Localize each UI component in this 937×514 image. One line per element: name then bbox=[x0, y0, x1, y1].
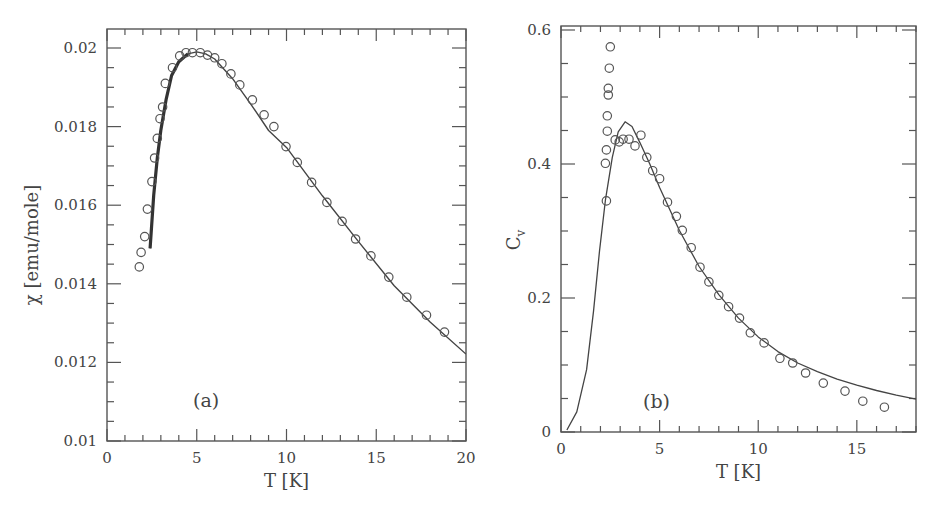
y-tick-label: 0.02 bbox=[64, 39, 97, 57]
data-points bbox=[601, 43, 888, 412]
x-axis-label: T [K] bbox=[716, 461, 761, 482]
x-tick-label: 15 bbox=[367, 449, 386, 467]
axis-ticks bbox=[561, 26, 916, 432]
data-point bbox=[631, 142, 639, 150]
y-tick-label: 0.01 bbox=[64, 432, 97, 450]
data-point bbox=[841, 387, 849, 395]
data-point bbox=[637, 131, 645, 139]
y-tick-label: 0 bbox=[541, 423, 551, 441]
chart-panel-a: 051015200.010.0120.0140.0160.0180.02T [K… bbox=[21, 29, 476, 491]
x-axis-label: T [K] bbox=[264, 470, 309, 491]
data-point bbox=[625, 135, 633, 143]
panel-label: (a) bbox=[193, 389, 219, 411]
data-point bbox=[270, 122, 278, 130]
data-point bbox=[141, 232, 149, 240]
fit-curve bbox=[150, 52, 466, 354]
y-tick-label: 0.012 bbox=[54, 353, 97, 371]
y-tick-label: 0.014 bbox=[54, 275, 97, 293]
x-tick-label: 5 bbox=[655, 440, 665, 458]
y-axis-label: χ [emu/mole] bbox=[21, 185, 42, 305]
panel-label: (b) bbox=[643, 390, 670, 412]
axis-ticks bbox=[107, 29, 466, 441]
data-point bbox=[605, 64, 613, 72]
y-axis-label: Cv bbox=[503, 230, 528, 251]
data-point bbox=[705, 278, 713, 286]
data-point bbox=[603, 127, 611, 135]
data-point bbox=[801, 369, 809, 377]
x-tick-label: 10 bbox=[749, 440, 768, 458]
data-point bbox=[135, 263, 143, 271]
data-point bbox=[606, 43, 614, 51]
data-point bbox=[248, 96, 256, 104]
x-tick-label: 10 bbox=[277, 449, 296, 467]
x-tick-label: 0 bbox=[556, 440, 566, 458]
fit-curve bbox=[567, 122, 916, 430]
x-tick-label: 15 bbox=[847, 440, 866, 458]
data-point bbox=[776, 354, 784, 362]
figure: 051015200.010.0120.0140.0160.0180.02T [K… bbox=[0, 0, 937, 514]
x-tick-label: 20 bbox=[456, 449, 475, 467]
data-point bbox=[602, 146, 610, 154]
y-tick-label: 0.4 bbox=[527, 155, 551, 173]
data-point bbox=[137, 248, 145, 256]
data-point bbox=[143, 205, 151, 213]
chart-panel-b: 05101500.20.40.6T [K]Cv(b) bbox=[503, 21, 916, 482]
plot-frame bbox=[561, 26, 916, 432]
data-point bbox=[735, 314, 743, 322]
y-tick-label: 0.016 bbox=[54, 196, 97, 214]
data-point bbox=[403, 293, 411, 301]
data-point bbox=[819, 379, 827, 387]
y-tick-label: 0.6 bbox=[527, 21, 551, 39]
y-tick-label: 0.2 bbox=[527, 289, 551, 307]
x-tick-label: 0 bbox=[102, 449, 112, 467]
data-point bbox=[601, 159, 609, 167]
data-point bbox=[260, 111, 268, 119]
plot-frame bbox=[107, 29, 466, 441]
data-point bbox=[859, 397, 867, 405]
y-tick-label: 0.018 bbox=[54, 118, 97, 136]
data-point bbox=[880, 403, 888, 411]
data-point bbox=[603, 112, 611, 120]
x-tick-label: 5 bbox=[192, 449, 202, 467]
